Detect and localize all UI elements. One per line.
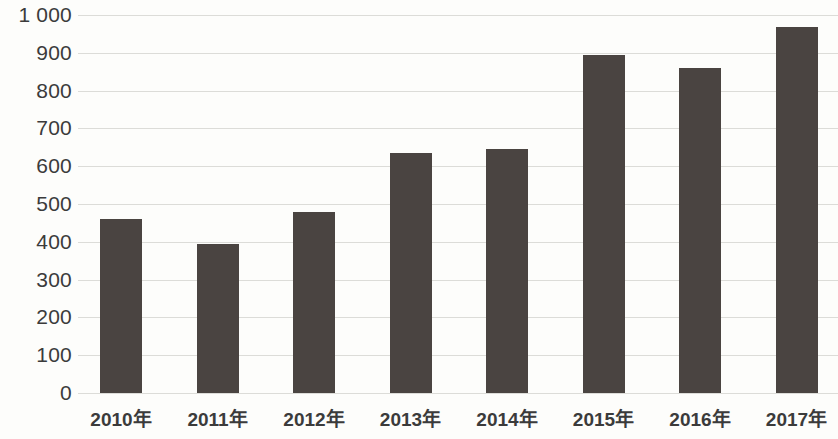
- y-axis-tick-label: 500: [0, 192, 72, 216]
- bar: [390, 153, 432, 393]
- bar: [100, 219, 142, 393]
- x-axis-tick-label: 2011年: [187, 404, 247, 431]
- gridline-200: [78, 317, 838, 318]
- gridline-400: [78, 242, 838, 243]
- gridline-900: [78, 53, 838, 54]
- bar-chart: 2010年2011年2012年2013年2014年2015年2016年2017年…: [0, 0, 838, 439]
- gridline-0: [78, 393, 838, 394]
- x-axis-tick-label: 2016年: [669, 404, 730, 431]
- bar: [486, 149, 528, 393]
- bar: [583, 55, 625, 393]
- y-axis-tick-label: 900: [0, 41, 72, 65]
- y-axis-tick-label: 200: [0, 305, 72, 329]
- x-axis-tick-label: 2015年: [573, 404, 634, 431]
- plot-area: [78, 15, 838, 393]
- y-axis-tick-label: 1 000: [0, 3, 72, 27]
- y-axis-tick-label: 400: [0, 230, 72, 254]
- bar: [293, 212, 335, 393]
- x-axis-tick-label: 2017年: [766, 404, 827, 431]
- gridline-1000: [78, 15, 838, 16]
- y-axis-tick-label: 0: [0, 381, 72, 405]
- x-axis-tick-label: 2012年: [283, 404, 344, 431]
- gridline-800: [78, 91, 838, 92]
- gridline-500: [78, 204, 838, 205]
- y-axis-tick-label: 600: [0, 154, 72, 178]
- x-axis-tick-label: 2014年: [476, 404, 537, 431]
- gridline-700: [78, 128, 838, 129]
- y-axis-tick-label: 300: [0, 268, 72, 292]
- y-axis-tick-label: 800: [0, 79, 72, 103]
- y-axis-tick-label: 700: [0, 116, 72, 140]
- y-axis-tick-label: 100: [0, 343, 72, 367]
- gridline-100: [78, 355, 838, 356]
- bar: [776, 27, 818, 393]
- x-axis-tick-label: 2013年: [380, 404, 441, 431]
- x-axis-tick-label: 2010年: [90, 404, 151, 431]
- x-axis: 2010年2011年2012年2013年2014年2015年2016年2017年: [78, 400, 838, 439]
- bar: [679, 68, 721, 393]
- bar: [197, 244, 239, 393]
- gridline-600: [78, 166, 838, 167]
- gridline-300: [78, 280, 838, 281]
